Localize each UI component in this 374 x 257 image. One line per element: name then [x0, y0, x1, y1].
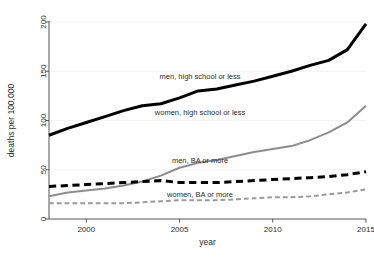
series-line-2: [49, 172, 366, 187]
series-label-3: women, BA or more: [166, 190, 233, 199]
y-tick-label-200: 200: [39, 15, 48, 29]
x-tick-label-2000: 2000: [77, 225, 95, 234]
chart-figure: 0501001502002000200520102015yeardeaths p…: [0, 0, 374, 257]
x-tick-label-2005: 2005: [171, 225, 189, 234]
x-tick-label-2015: 2015: [357, 225, 374, 234]
y-axis-title: deaths per 100,000: [6, 84, 16, 158]
y-tick-label-100: 100: [39, 113, 48, 127]
y-tick-label-150: 150: [39, 64, 48, 78]
y-tick-label-0: 0: [39, 216, 48, 221]
x-axis-title: year: [199, 237, 216, 247]
series-label-0: men, high school or less: [160, 72, 241, 81]
series-label-1: women, high school or less: [154, 108, 246, 117]
x-tick-label-2010: 2010: [264, 225, 282, 234]
series-label-2: men, BA or more: [172, 156, 228, 165]
y-tick-label-50: 50: [39, 165, 48, 174]
line-chart: 0501001502002000200520102015yeardeaths p…: [0, 0, 374, 257]
